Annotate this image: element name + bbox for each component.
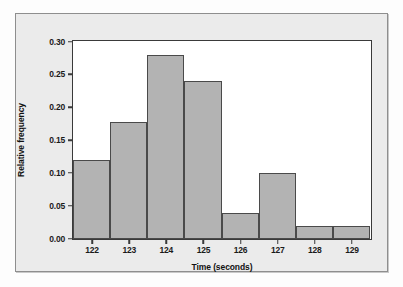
- y-axis-tick-mark: [68, 238, 72, 240]
- x-axis-tick-label: 124: [160, 245, 174, 255]
- y-axis-tick-label: 0.15: [49, 135, 65, 145]
- histogram-bar: [147, 55, 184, 239]
- plot-inner: [73, 41, 371, 239]
- y-axis-tick-mark: [68, 74, 72, 76]
- y-axis-tick-mark: [68, 106, 72, 108]
- y-axis-tick-label: 0.20: [49, 102, 65, 112]
- x-axis-tick-mark: [314, 240, 316, 244]
- y-axis-tick-mark: [68, 41, 72, 43]
- histogram-bar: [184, 81, 221, 239]
- plot-area: [72, 40, 372, 240]
- histogram-bar: [333, 226, 370, 239]
- y-axis-label: Relative frequency: [16, 103, 26, 177]
- histogram-bar: [259, 173, 296, 239]
- x-axis-tick-mark: [128, 240, 130, 244]
- x-axis-tick-mark: [351, 240, 353, 244]
- x-axis-tick-label: 125: [197, 245, 211, 255]
- x-axis-tick-label: 123: [122, 245, 136, 255]
- x-axis-tick-label: 128: [308, 245, 322, 255]
- x-axis-tick-mark: [240, 240, 242, 244]
- histogram-bar: [73, 160, 110, 239]
- x-axis-tick-label: 126: [234, 245, 248, 255]
- y-axis-tick-mark: [68, 205, 72, 207]
- x-axis-tick-mark: [91, 240, 93, 244]
- y-axis-tick-label: 0.25: [49, 69, 65, 79]
- histogram-bar: [110, 122, 147, 239]
- histogram-bar: [296, 226, 333, 239]
- y-axis-tick-label: 0.30: [49, 37, 65, 47]
- y-axis-tick-label: 0.05: [49, 201, 65, 211]
- y-axis-tick-mark: [68, 139, 72, 141]
- x-axis-tick-label: 127: [271, 245, 285, 255]
- x-axis-tick-label: 129: [345, 245, 359, 255]
- x-axis-tick-mark: [277, 240, 279, 244]
- histogram-bar: [222, 213, 259, 239]
- bar-series: [73, 41, 371, 239]
- x-axis-label: Time (seconds): [72, 262, 372, 272]
- x-axis-tick-mark: [166, 240, 168, 244]
- y-axis-tick-mark: [68, 172, 72, 174]
- y-axis-tick-label: 0.10: [49, 168, 65, 178]
- histogram-figure: 0.000.050.100.150.200.250.30 12212312412…: [0, 0, 403, 287]
- y-axis-tick-label: 0.00: [49, 234, 65, 244]
- x-axis-tick-mark: [203, 240, 205, 244]
- x-axis-tick-label: 122: [85, 245, 99, 255]
